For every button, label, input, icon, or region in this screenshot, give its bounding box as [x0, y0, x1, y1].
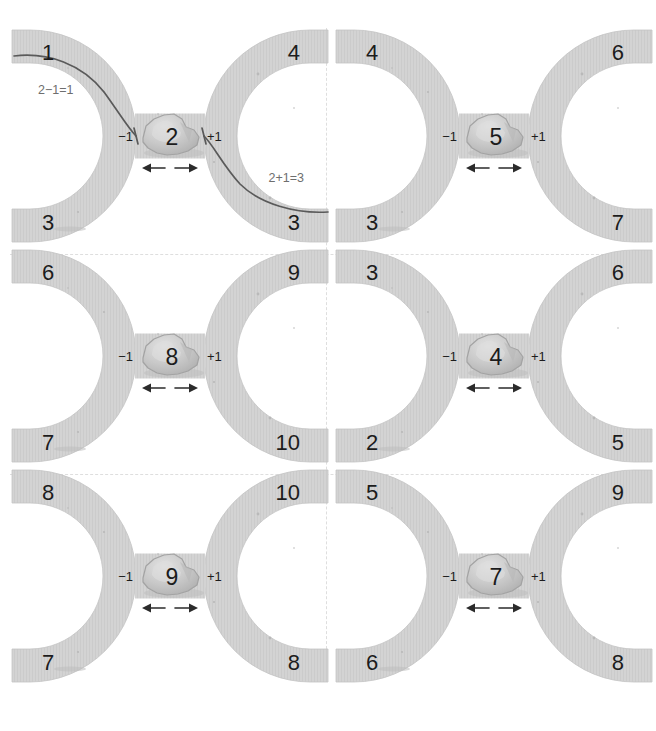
- panel-1[interactable]: 1343−1+122−1=12+1=3: [8, 22, 332, 250]
- diagram-canvas: 67910−1+18: [8, 242, 332, 470]
- corner-number-top-left: 1: [42, 40, 54, 65]
- paper-speck: [213, 381, 215, 383]
- pebble-number: 7: [490, 564, 503, 590]
- paper-speck: [157, 553, 159, 555]
- plus-one-label: +1: [207, 129, 222, 144]
- paper-speck: [67, 287, 69, 289]
- paper-speck: [157, 113, 159, 115]
- equation-right: 2+1=3: [269, 171, 305, 185]
- corner-number-bottom-right: 7: [612, 210, 624, 235]
- paper-speck: [157, 333, 159, 335]
- pebble-number: 8: [166, 344, 179, 370]
- plus-one-label: +1: [531, 569, 546, 584]
- plus-one-label: +1: [531, 349, 546, 364]
- width-arrow: [142, 604, 198, 613]
- pencil-smudge: [54, 667, 86, 672]
- pebble-number: 9: [166, 564, 179, 590]
- corner-number-top-left: 6: [42, 260, 54, 285]
- pencil-smudge: [378, 227, 410, 232]
- paper-speck: [67, 67, 69, 69]
- paper-speck: [77, 651, 79, 653]
- paper-speck: [391, 507, 393, 509]
- minus-one-label: −1: [442, 569, 457, 584]
- paper-speck: [67, 507, 69, 509]
- corner-number-top-right: 6: [612, 40, 624, 65]
- paper-speck: [537, 161, 539, 163]
- width-arrow: [466, 384, 522, 393]
- paper-speck: [427, 91, 429, 93]
- paper-speck: [103, 311, 105, 313]
- corner-number-bottom-right: 8: [612, 650, 624, 675]
- paper-speck: [257, 293, 260, 296]
- minus-one-label: −1: [442, 129, 457, 144]
- panel-3[interactable]: 67910−1+18: [8, 242, 332, 470]
- paper-speck: [617, 107, 619, 109]
- paper-speck: [213, 601, 215, 603]
- paper-speck: [581, 513, 584, 516]
- pebble-number: 4: [490, 344, 503, 370]
- paper-speck: [293, 107, 295, 109]
- diagram-canvas: 3265−1+14: [332, 242, 656, 470]
- paper-speck: [481, 553, 483, 555]
- corner-number-bottom-left: 2: [366, 430, 378, 455]
- paper-speck: [593, 417, 596, 420]
- paper-speck: [293, 547, 295, 549]
- paper-speck: [401, 211, 403, 213]
- plus-one-label: +1: [531, 129, 546, 144]
- plus-one-label: +1: [207, 349, 222, 364]
- paper-speck: [617, 327, 619, 329]
- corner-number-top-right: 9: [288, 260, 300, 285]
- corner-number-bottom-left: 3: [42, 210, 54, 235]
- diagram-canvas: 4367−1+15: [332, 22, 656, 250]
- panel-6[interactable]: 5698−1+17: [332, 462, 656, 690]
- right-loop-band: [204, 470, 328, 682]
- corner-number-bottom-left: 6: [366, 650, 378, 675]
- corner-number-bottom-right: 10: [276, 430, 300, 455]
- corner-number-bottom-left: 3: [366, 210, 378, 235]
- corner-number-top-left: 3: [366, 260, 378, 285]
- paper-speck: [617, 547, 619, 549]
- diagram-canvas: 5698−1+17: [332, 462, 656, 690]
- paper-speck: [103, 531, 105, 533]
- panel-5[interactable]: 87108−1+19: [8, 462, 332, 690]
- corner-number-top-left: 8: [42, 480, 54, 505]
- paper-speck: [401, 651, 403, 653]
- minus-one-label: −1: [118, 569, 133, 584]
- paper-speck: [481, 333, 483, 335]
- paper-speck: [593, 637, 596, 640]
- paper-speck: [257, 513, 260, 516]
- corner-number-bottom-right: 5: [612, 430, 624, 455]
- paper-speck: [257, 73, 260, 76]
- right-loop-band: [204, 30, 328, 242]
- pencil-smudge: [54, 227, 86, 232]
- corner-number-top-left: 4: [366, 40, 378, 65]
- pebble-number: 2: [166, 124, 179, 150]
- paper-speck: [77, 211, 79, 213]
- paper-speck: [427, 531, 429, 533]
- paper-speck: [481, 113, 483, 115]
- corner-number-bottom-left: 7: [42, 430, 54, 455]
- pencil-smudge: [378, 447, 410, 452]
- paper-speck: [391, 67, 393, 69]
- corner-number-top-left: 5: [366, 480, 378, 505]
- equation-left: 2−1=1: [38, 83, 74, 97]
- pencil-smudge: [378, 667, 410, 672]
- paper-speck: [269, 637, 272, 640]
- corner-number-bottom-left: 7: [42, 650, 54, 675]
- right-loop-band: [528, 470, 652, 682]
- width-arrow: [466, 604, 522, 613]
- minus-one-label: −1: [442, 349, 457, 364]
- paper-speck: [213, 161, 215, 163]
- width-arrow: [142, 384, 198, 393]
- corner-number-top-right: 4: [288, 40, 300, 65]
- pebble-number: 5: [490, 124, 503, 150]
- paper-speck: [593, 197, 596, 200]
- paper-speck: [581, 293, 584, 296]
- pencil-smudge: [54, 447, 86, 452]
- panel-4[interactable]: 3265−1+14: [332, 242, 656, 470]
- diagram-canvas: 87108−1+19: [8, 462, 332, 690]
- panel-2[interactable]: 4367−1+15: [332, 22, 656, 250]
- paper-speck: [401, 431, 403, 433]
- paper-speck: [537, 381, 539, 383]
